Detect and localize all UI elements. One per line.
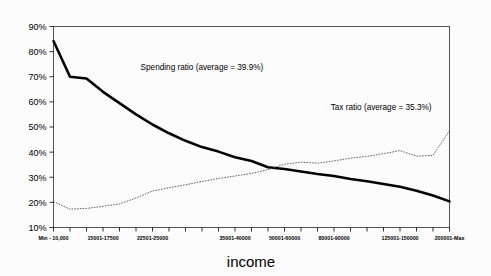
plot-frame [54, 27, 450, 228]
x-tick-label: 200001-Max [435, 235, 465, 241]
y-tick-label: 40% [28, 148, 46, 158]
y-tick-label: 70% [28, 72, 46, 82]
x-axis-ticks [54, 228, 450, 232]
x-tick-label: 15001-17500 [87, 235, 118, 241]
chart-container: 90%80%70%60%50%40%30%20%10% Min - 10,000… [0, 0, 491, 276]
spending-ratio-annotation: Spending ratio (average = 39.9%) [141, 63, 264, 72]
line-chart: 90%80%70%60%50%40%30%20%10% Min - 10,000… [0, 0, 491, 276]
y-axis-ticks [50, 27, 54, 228]
x-tick-label: 22501-25000 [137, 235, 168, 241]
x-axis-labels: Min - 10,00015001-1750022501-2500035001-… [38, 235, 464, 241]
y-tick-label: 20% [28, 198, 46, 208]
tax-ratio-annotation: Tax ratio (average = 35.3%) [331, 103, 432, 112]
y-tick-label: 10% [28, 223, 46, 233]
y-tick-label: 60% [28, 97, 46, 107]
x-tick-label: 80001-90000 [318, 235, 349, 241]
y-tick-label: 90% [28, 22, 46, 32]
y-tick-label: 80% [28, 47, 46, 57]
tax-ratio-series [54, 131, 450, 209]
y-axis-labels: 90%80%70%60%50%40%30%20%10% [28, 22, 46, 233]
x-tick-label: 50001-60000 [269, 235, 300, 241]
x-tick-label: Min - 10,000 [38, 235, 68, 241]
x-tick-label: 125001-150000 [381, 235, 418, 241]
x-tick-label: 35001-40000 [219, 235, 250, 241]
y-tick-label: 30% [28, 173, 46, 183]
y-tick-label: 50% [28, 122, 46, 132]
x-axis-title: income [227, 253, 275, 270]
